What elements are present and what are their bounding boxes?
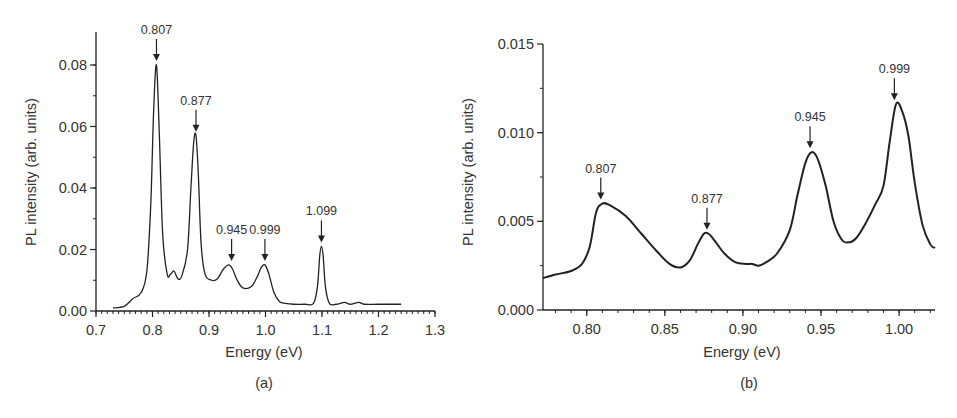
panel-caption: (a) xyxy=(255,375,273,391)
x-tick-label: 1.2 xyxy=(368,322,388,338)
arrow-down-icon xyxy=(891,93,898,100)
peak-annotation: 0.877 xyxy=(180,94,211,132)
y-axis-label: PL intensity (arb. units) xyxy=(23,98,39,246)
peak-annotation: 0.999 xyxy=(249,223,280,261)
panel-caption: (b) xyxy=(740,375,758,391)
x-tick-label: 0.95 xyxy=(807,321,835,337)
chart-canvas: 0.70.80.91.01.11.21.30.000.020.040.060.0… xyxy=(0,0,957,418)
peak-annotation: 0.877 xyxy=(691,192,722,230)
peak-label: 0.945 xyxy=(794,110,825,124)
y-tick-label: 0.005 xyxy=(498,213,534,229)
peak-annotation: 0.807 xyxy=(141,23,172,61)
peak-annotation: 0.999 xyxy=(879,62,910,100)
y-axis-label: PL intensity (arb. units) xyxy=(460,98,476,246)
pl-spectrum-line xyxy=(543,103,935,279)
arrow-down-icon xyxy=(807,141,814,148)
y-tick-label: 0.08 xyxy=(59,57,87,73)
pl-spectrum-line xyxy=(113,65,401,308)
x-tick-label: 0.9 xyxy=(199,322,219,338)
peak-label: 0.877 xyxy=(691,192,722,206)
peak-label: 1.099 xyxy=(306,204,337,218)
arrow-down-icon xyxy=(193,125,200,132)
peak-annotation: 0.807 xyxy=(585,162,616,200)
x-axis-label: Energy (eV) xyxy=(703,344,780,360)
x-tick-label: 0.85 xyxy=(651,321,679,337)
peak-annotation: 0.945 xyxy=(794,110,825,148)
y-tick-label: 0.02 xyxy=(59,242,87,258)
peak-label: 0.999 xyxy=(249,223,280,237)
x-tick-label: 0.8 xyxy=(142,322,162,338)
x-tick-label: 0.90 xyxy=(729,321,757,337)
arrow-down-icon xyxy=(261,254,268,261)
y-tick-label: 0.015 xyxy=(498,36,534,52)
y-tick-label: 0.000 xyxy=(498,302,534,318)
peak-label: 0.999 xyxy=(879,62,910,76)
x-tick-label: 1.3 xyxy=(425,322,445,338)
x-tick-label: 1.1 xyxy=(312,322,332,338)
y-tick-label: 0.010 xyxy=(498,125,534,141)
y-tick-label: 0.06 xyxy=(59,119,87,135)
x-axis-label: Energy (eV) xyxy=(225,344,302,360)
peak-annotation: 1.099 xyxy=(306,204,337,242)
peak-label: 0.807 xyxy=(585,162,616,176)
peak-label: 0.945 xyxy=(216,223,247,237)
x-tick-label: 1.0 xyxy=(255,322,275,338)
arrow-down-icon xyxy=(597,193,604,200)
arrow-down-icon xyxy=(703,223,710,230)
arrow-down-icon xyxy=(228,254,235,261)
chart-panel-a: 0.70.80.91.01.11.21.30.000.020.040.060.0… xyxy=(23,23,445,391)
chart-panel-b: 0.800.850.900.951.000.0000.0050.0100.015… xyxy=(460,36,935,391)
peak-label: 0.877 xyxy=(180,94,211,108)
peak-label: 0.807 xyxy=(141,23,172,37)
y-tick-label: 0.04 xyxy=(59,180,87,196)
y-tick-label: 0.00 xyxy=(59,303,87,319)
x-tick-label: 0.7 xyxy=(86,322,106,338)
arrow-down-icon xyxy=(153,54,160,61)
arrow-down-icon xyxy=(318,235,325,242)
x-tick-label: 0.80 xyxy=(573,321,601,337)
x-tick-label: 1.00 xyxy=(885,321,913,337)
peak-annotation: 0.945 xyxy=(216,223,247,261)
